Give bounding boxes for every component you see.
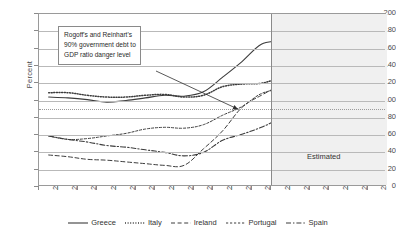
legend-item-italy[interactable]: Italy: [125, 218, 162, 227]
legend-swatch-ireland: [171, 220, 191, 226]
legend-label: Greece: [91, 218, 116, 227]
legend-label: Portugal: [249, 218, 277, 227]
debt-to-gdp-line-chart: Percent 020406080100120140160180200 2000…: [0, 0, 396, 236]
chart-legend: GreeceItalyIrelandPortugalSpain: [0, 218, 396, 227]
legend-label: Ireland: [194, 218, 217, 227]
callout-line-2: 90% government debt to: [64, 40, 136, 50]
legend-swatch-portugal: [226, 220, 246, 226]
callout-line-3: GDP ratio danger level: [64, 50, 136, 60]
y-axis-title: Percent: [25, 40, 34, 110]
legend-swatch-greece: [68, 220, 88, 226]
callout-line-1: Rogoff's and Reinhart's: [64, 30, 136, 40]
legend-swatch-italy: [125, 220, 145, 226]
legend-item-spain[interactable]: Spain: [286, 218, 328, 227]
legend-label: Italy: [148, 218, 162, 227]
legend-swatch-spain: [286, 220, 306, 226]
legend-item-greece[interactable]: Greece: [68, 218, 116, 227]
danger-level-callout: Rogoff's and Reinhart's 90% government d…: [58, 26, 141, 65]
legend-item-portugal[interactable]: Portugal: [226, 218, 277, 227]
legend-item-ireland[interactable]: Ireland: [171, 218, 217, 227]
legend-label: Spain: [309, 218, 328, 227]
